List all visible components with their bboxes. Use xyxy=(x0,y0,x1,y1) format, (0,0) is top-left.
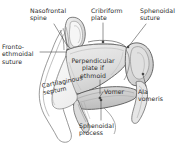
nasal-septum-illustration xyxy=(0,0,185,147)
sphenoid-body-structure xyxy=(124,43,153,86)
anatomical-figure: Nasofrontal spine Cribriform plate Sphen… xyxy=(0,0,185,147)
